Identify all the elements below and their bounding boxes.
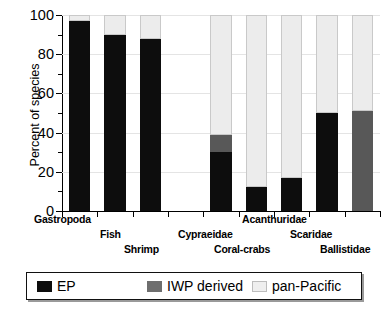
bar-segment: [69, 21, 90, 211]
y-tick: [56, 93, 62, 94]
y-tick-label: 80: [38, 47, 54, 62]
bar-segment: [246, 15, 267, 187]
bar-segment: [140, 15, 161, 39]
chart-figure: Percent of species 020406080100 Gastropo…: [0, 0, 390, 312]
x-tick: [345, 211, 346, 217]
bar-shrimp: [140, 15, 161, 211]
bar-segment: [69, 15, 90, 21]
x-tick: [168, 211, 169, 217]
bar-segment: [352, 111, 373, 211]
y-tick-minor: [58, 113, 62, 114]
y-tick-label: 100: [30, 8, 54, 23]
y-tick: [56, 15, 62, 16]
x-axis-label: Shrimp: [124, 243, 159, 255]
x-tick: [97, 211, 98, 217]
y-tick: [56, 54, 62, 55]
x-tick: [239, 211, 240, 217]
bar-ballistidae: [352, 15, 373, 211]
bar-segment: [316, 15, 337, 113]
bar-segment: [210, 15, 231, 135]
x-axis-label: Gastropoda: [34, 213, 91, 225]
x-tick: [203, 211, 204, 217]
bar-acanthuridae: [281, 15, 302, 211]
bar-segment: [352, 15, 373, 111]
y-tick: [56, 133, 62, 134]
legend-label: EP: [57, 279, 76, 293]
bar-segment: [104, 15, 125, 35]
x-axis-label: Coral-crabs: [214, 243, 270, 255]
x-axis-label: Acanthuridae: [242, 213, 307, 225]
y-tick: [56, 172, 62, 173]
x-axis-label: Ballistidae: [320, 243, 370, 255]
y-tick-minor: [58, 35, 62, 36]
x-axis-label: Scaridae: [290, 228, 332, 240]
y-tick-label: 40: [38, 125, 54, 140]
bar-fish: [104, 15, 125, 211]
bar-segment: [281, 178, 302, 211]
bar-segment: [210, 152, 231, 211]
x-axis-line: [62, 211, 380, 212]
bar-gastropoda: [69, 15, 90, 211]
chart-legend: EPIWP derivedpan-Pacific: [26, 272, 362, 300]
x-tick: [309, 211, 310, 217]
x-axis-label: Fish: [100, 228, 121, 240]
bar-cypraeidae: [210, 15, 231, 211]
plot-area: 020406080100: [62, 15, 380, 211]
legend-label: IWP derived: [167, 279, 243, 293]
bar-segment: [210, 135, 231, 153]
x-tick: [380, 211, 381, 217]
y-tick-label: 60: [38, 86, 54, 101]
bar-segment: [140, 39, 161, 211]
y-tick-minor: [58, 152, 62, 153]
bar-segment: [316, 113, 337, 211]
x-tick: [133, 211, 134, 217]
legend-item-ep: EP: [37, 279, 76, 293]
legend-item-iwp: IWP derived: [147, 279, 243, 293]
bar-segment: [104, 35, 125, 211]
legend-item-pan: pan-Pacific: [252, 279, 341, 293]
legend-swatch-icon: [147, 281, 162, 292]
bar-coral-crabs: [246, 15, 267, 211]
bar-segment: [246, 187, 267, 211]
y-tick-minor: [58, 191, 62, 192]
y-tick-label: 20: [38, 165, 54, 180]
legend-label: pan-Pacific: [272, 279, 341, 293]
y-tick-minor: [58, 74, 62, 75]
bar-segment: [281, 15, 302, 178]
x-axis-label: Cypraeidae: [178, 228, 233, 240]
bar-scaridae: [316, 15, 337, 211]
legend-swatch-icon: [252, 281, 267, 292]
legend-swatch-icon: [37, 281, 52, 292]
